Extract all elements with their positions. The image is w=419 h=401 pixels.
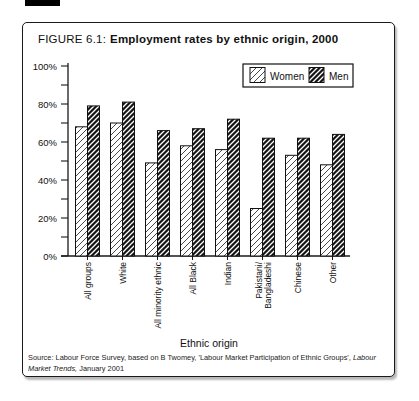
x-category-label: Bangladeshi [263,262,273,309]
bar-men-5 [263,138,275,256]
x-category-label: All Black [188,261,198,294]
x-category-label: Indian [223,262,233,285]
bar-men-1 [123,102,135,256]
bar-women-1 [111,123,123,256]
bar-women-0 [76,127,88,256]
x-category-label: All groups [83,262,93,300]
source-text: Source: Labour Force Survey, based on B … [28,353,353,362]
figure-page: { "figure": { "label": "FIGURE 6.1:", "t… [0,0,419,401]
employment-rates-bar-chart: 0%20%40%60%80%100%All groupsWhiteAll min… [0,0,419,401]
bar-women-4 [216,150,228,256]
x-category-label: All minority ethnic [153,261,163,328]
bar-men-6 [298,138,310,256]
y-tick-label: 60% [38,137,58,148]
x-category-label: White [118,262,128,284]
bar-men-4 [228,119,240,256]
source-note: Source: Labour Force Survey, based on B … [28,352,384,374]
y-tick-label: 20% [38,213,58,224]
legend-swatch-women [250,68,265,83]
bar-women-7 [321,165,333,256]
legend-swatch-men [309,68,324,83]
bar-men-0 [88,106,100,256]
bar-women-3 [181,146,193,256]
legend-label-women: Women [270,71,304,82]
legend-label-men: Men [329,71,348,82]
y-tick-label: 0% [43,251,57,262]
x-category-label: Chinese [293,262,303,293]
bar-women-6 [286,155,298,256]
y-tick-label: 100% [33,61,58,72]
y-tick-label: 40% [38,175,58,186]
bar-men-3 [193,129,205,256]
bar-men-2 [158,131,170,256]
y-tick-label: 80% [38,99,58,110]
x-category-label: Other [328,262,338,283]
bar-men-7 [333,134,345,256]
x-axis-title: Ethnic origin [180,337,238,349]
bar-women-2 [146,163,158,256]
bar-women-5 [251,209,263,257]
source-date: January 2001 [77,364,124,373]
